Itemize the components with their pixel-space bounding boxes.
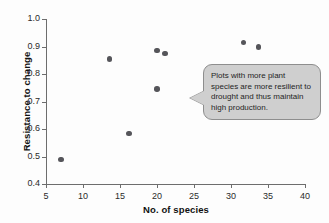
x-tick-label: 15: [108, 191, 132, 201]
y-axis-line: [46, 19, 47, 185]
x-tick: [83, 184, 84, 188]
data-point: [126, 131, 132, 137]
data-point: [154, 86, 160, 92]
x-tick: [157, 184, 158, 188]
data-point: [58, 157, 64, 163]
x-tick: [194, 184, 195, 188]
x-tick: [120, 184, 121, 188]
y-tick: [42, 102, 46, 103]
data-point: [154, 48, 160, 54]
y-tick-label: 0.8: [16, 68, 40, 78]
data-point: [241, 40, 247, 46]
y-tick-label: 0.6: [16, 123, 40, 133]
y-tick: [42, 74, 46, 75]
x-tick-label: 35: [256, 191, 280, 201]
data-point: [162, 51, 168, 57]
y-tick-label: 0.9: [16, 41, 40, 51]
y-tick-label: 0.5: [16, 151, 40, 161]
y-tick: [42, 157, 46, 158]
x-tick-label: 10: [71, 191, 95, 201]
data-point: [107, 56, 113, 62]
x-axis-label: No. of species: [46, 204, 306, 215]
x-tick-label: 25: [182, 191, 206, 201]
x-tick: [231, 184, 232, 188]
x-tick: [268, 184, 269, 188]
y-tick: [42, 47, 46, 48]
callout-text: Plots with more plant species are more r…: [211, 71, 314, 113]
x-tick: [46, 184, 47, 188]
y-tick-label: 0.7: [16, 96, 40, 106]
data-point: [256, 44, 262, 50]
annotation-callout: Plots with more plant species are more r…: [203, 64, 321, 120]
y-tick-label: 0.4: [16, 178, 40, 188]
y-tick-label: 1.0: [16, 13, 40, 23]
y-tick: [42, 129, 46, 130]
scatter-plot-figure: Resistance to change No. of species 1.00…: [0, 0, 329, 223]
callout-tail-icon: [190, 91, 204, 105]
x-tick-label: 5: [34, 191, 58, 201]
x-tick-label: 20: [145, 191, 169, 201]
x-tick-label: 30: [219, 191, 243, 201]
x-axis-line: [46, 184, 306, 185]
x-tick-label: 40: [293, 191, 317, 201]
x-tick: [305, 184, 306, 188]
y-tick: [42, 19, 46, 20]
